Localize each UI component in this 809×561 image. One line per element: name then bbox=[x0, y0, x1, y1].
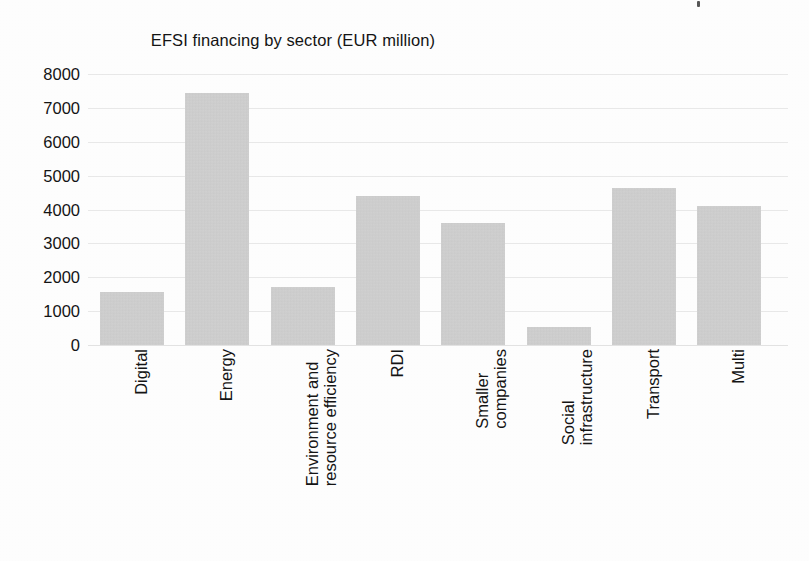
bar-digital bbox=[100, 292, 164, 345]
bar-energy bbox=[185, 93, 249, 345]
x-tick-label: Smaller companies bbox=[473, 349, 510, 429]
x-tick-label: Transport bbox=[644, 349, 662, 419]
x-tick-rdi: RDI bbox=[356, 349, 420, 539]
y-tick-label-2000: 2000 bbox=[14, 269, 80, 286]
x-tick-environment-and-resource-efficiency: Environment and resource efficiency bbox=[271, 349, 335, 539]
y-tick-label-5000: 5000 bbox=[14, 167, 80, 184]
gridline-0 bbox=[88, 345, 788, 346]
x-axis-tick-labels: DigitalEnergyEnvironment and resource ef… bbox=[88, 349, 788, 549]
bar-social-infrastructure bbox=[527, 327, 591, 345]
x-tick-transport: Transport bbox=[612, 349, 676, 539]
bar-environment-and-resource-efficiency bbox=[271, 287, 335, 345]
x-tick-label: Digital bbox=[132, 349, 150, 395]
y-tick-label-7000: 7000 bbox=[14, 100, 80, 117]
chart-title: EFSI financing by sector (EUR million) bbox=[0, 31, 586, 50]
y-tick-label-0: 0 bbox=[14, 337, 80, 354]
gridline-8000 bbox=[88, 74, 788, 75]
x-tick-label: RDI bbox=[388, 349, 406, 377]
x-tick-label: Multi bbox=[729, 349, 747, 384]
y-axis-tick-labels: 010002000300040005000600070008000 bbox=[8, 74, 80, 345]
x-tick-label: Environment and resource efficiency bbox=[303, 349, 340, 486]
x-tick-label: Social infrastructure bbox=[559, 349, 596, 445]
x-tick-digital: Digital bbox=[100, 349, 164, 539]
y-tick-label-1000: 1000 bbox=[14, 303, 80, 320]
scan-artifact-speck bbox=[697, 1, 700, 7]
bar-transport bbox=[612, 188, 676, 345]
y-tick-label-8000: 8000 bbox=[14, 66, 80, 83]
plot-area bbox=[88, 74, 788, 345]
x-tick-multi: Multi bbox=[697, 349, 761, 539]
chart-figure: EFSI financing by sector (EUR million) 0… bbox=[0, 0, 809, 561]
y-tick-label-4000: 4000 bbox=[14, 201, 80, 218]
x-tick-label: Energy bbox=[217, 349, 235, 401]
x-tick-social-infrastructure: Social infrastructure bbox=[527, 349, 591, 539]
y-tick-label-6000: 6000 bbox=[14, 134, 80, 151]
x-tick-energy: Energy bbox=[185, 349, 249, 539]
bar-smaller-companies bbox=[441, 223, 505, 345]
bar-rdi bbox=[356, 196, 420, 345]
x-tick-smaller-companies: Smaller companies bbox=[441, 349, 505, 539]
bar-multi bbox=[697, 206, 761, 345]
y-tick-label-3000: 3000 bbox=[14, 235, 80, 252]
